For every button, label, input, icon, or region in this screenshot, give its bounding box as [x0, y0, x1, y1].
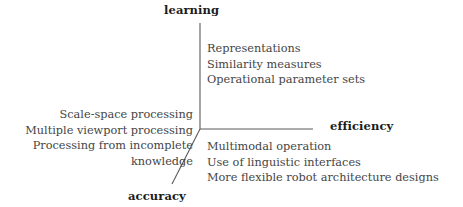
- accuracy-item-list: Scale-space processing Multiple viewport…: [25, 107, 193, 169]
- axis-label-accuracy: accuracy: [128, 189, 186, 203]
- list-item: Use of linguistic interfaces: [207, 155, 439, 171]
- list-item: Multiple viewport processing: [25, 123, 193, 139]
- efficiency-item-list: Multimodal operation Use of linguistic i…: [207, 139, 439, 186]
- list-item: Multimodal operation: [207, 139, 439, 155]
- list-item: More flexible robot architecture designs: [207, 170, 439, 186]
- list-item: Operational parameter sets: [207, 72, 365, 88]
- learning-item-list: Representations Similarity measures Oper…: [207, 41, 365, 88]
- list-item: Similarity measures: [207, 57, 365, 73]
- concept-axes-diagram: learning efficiency accuracy Representat…: [0, 0, 463, 207]
- list-item: Representations: [207, 41, 365, 57]
- list-item: Scale-space processing: [25, 107, 193, 123]
- axis-label-efficiency: efficiency: [330, 119, 393, 133]
- list-item: Processing from incomplete: [25, 138, 193, 154]
- axis-label-learning: learning: [164, 3, 219, 17]
- list-item: knowledge: [25, 154, 193, 170]
